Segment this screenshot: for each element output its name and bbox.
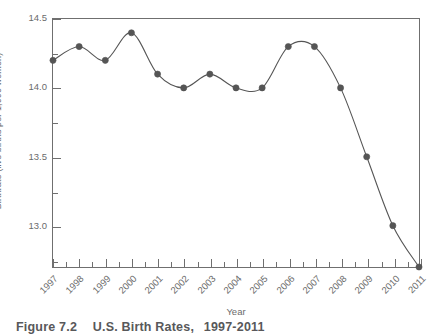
y-axis-tick-label: 14.0 bbox=[13, 82, 47, 92]
data-point bbox=[233, 85, 239, 91]
data-point bbox=[50, 57, 56, 63]
series-markers bbox=[50, 30, 422, 270]
data-point bbox=[102, 57, 108, 63]
data-point bbox=[259, 85, 265, 91]
figure-caption: Figure 7.2 U.S. Birth Rates, 1997-2011 bbox=[16, 320, 436, 334]
data-point bbox=[364, 154, 370, 160]
data-point bbox=[128, 30, 134, 36]
series-line-us-birthrate bbox=[53, 33, 419, 267]
caption-number: Figure 7.2 bbox=[16, 320, 77, 334]
x-axis-title: Year bbox=[52, 306, 420, 317]
y-axis-title: Birthrate (live births per 1,000 women) bbox=[0, 6, 5, 256]
line-chart-plot bbox=[53, 19, 419, 267]
y-axis-tick-label: 13.5 bbox=[13, 152, 47, 162]
y-axis-tick-label: 14.5 bbox=[13, 13, 47, 23]
data-point bbox=[154, 71, 160, 77]
data-point bbox=[390, 223, 396, 229]
data-point bbox=[76, 43, 82, 49]
data-point bbox=[207, 71, 213, 77]
data-point bbox=[181, 85, 187, 91]
data-point bbox=[416, 264, 422, 270]
data-point bbox=[337, 85, 343, 91]
caption-range: 1997-2011 bbox=[204, 320, 265, 334]
y-axis-tick-label: 13.0 bbox=[13, 221, 47, 231]
plot-area bbox=[52, 18, 420, 268]
data-point bbox=[285, 43, 291, 49]
data-point bbox=[311, 43, 317, 49]
caption-label: U.S. Birth Rates, bbox=[93, 320, 194, 334]
